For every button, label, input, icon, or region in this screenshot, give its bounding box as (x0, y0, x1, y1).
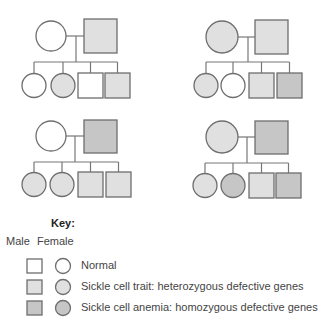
key-label-normal: Normal (81, 259, 116, 271)
mother-normal-circle (36, 21, 66, 51)
son-trait-square (106, 172, 131, 197)
mother-trait-circle (206, 121, 238, 153)
son-trait-square (249, 173, 274, 198)
mother-trait-circle (206, 21, 238, 53)
daughter-anemia-circle (221, 174, 245, 198)
key-male-anemia-square (27, 301, 42, 315)
daughter-trait-circle (193, 174, 217, 198)
daughter-normal-circle (22, 74, 46, 98)
daughter-trait-circle (22, 173, 46, 197)
key-column-headers: Male Female (6, 235, 74, 247)
key-female-anemia-circle (56, 301, 71, 316)
daughter-normal-circle (221, 74, 245, 98)
father-trait-square (84, 19, 117, 53)
son-trait-square (249, 73, 274, 98)
key-female-normal-circle (56, 259, 71, 274)
key-label-anemia: Sickle cell anemia: homozygous defective… (81, 301, 318, 313)
key-male-header: Male (6, 235, 30, 247)
father-anemia-square (255, 121, 288, 154)
key-male-trait-square (27, 280, 42, 294)
key-female-header: Female (37, 235, 74, 247)
mother-normal-circle (36, 121, 66, 151)
key-female-trait-circle (56, 280, 71, 295)
father-anemia-square (84, 120, 117, 153)
key-label-trait: Sickle cell trait: heterozygous defectiv… (81, 280, 304, 292)
son-normal-square (78, 73, 103, 98)
daughter-trait-circle (50, 173, 74, 197)
key-male-normal-square (27, 259, 42, 273)
father-trait-square (255, 20, 288, 54)
key-title: Key: (51, 217, 75, 229)
son-anemia-square (277, 73, 302, 98)
son-trait-square (78, 172, 103, 197)
son-anemia-square (276, 173, 301, 198)
daughter-trait-circle (51, 74, 75, 98)
daughter-trait-circle (194, 74, 218, 98)
son-trait-square (105, 73, 130, 98)
